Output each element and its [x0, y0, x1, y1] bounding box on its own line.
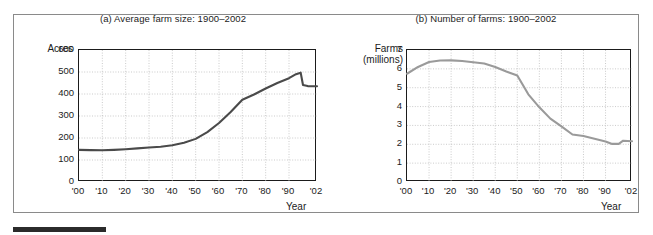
chart-a-ytick-label: 600	[48, 43, 74, 54]
chart-a-xtick-label: '90	[277, 185, 299, 196]
chart-a-xtick-label: '30	[137, 185, 159, 196]
chart-a-svg	[79, 50, 317, 182]
chart-b-xtick-label: '20	[439, 185, 461, 196]
chart-b-xtick-label: '50	[505, 185, 527, 196]
chart-b-ytick-label: 3	[376, 118, 402, 129]
chart-b-xtick-label: '90	[594, 185, 616, 196]
chart-b-xtick-label: '40	[483, 185, 505, 196]
chart-a-xtick-label: '20	[114, 185, 136, 196]
chart-b-xtick-label: '00	[395, 185, 417, 196]
chart-b-ytick-label: 7	[376, 43, 402, 54]
chart-a-xlabel: Year	[286, 201, 306, 212]
chart-b-plot-area	[406, 49, 631, 181]
chart-b-svg	[407, 50, 632, 182]
chart-panel-a: (a) Average farm size: 1900–2002 Acres Y…	[13, 0, 333, 199]
chart-a-ytick-label: 100	[48, 153, 74, 164]
chart-b-ytick-label: 5	[376, 81, 402, 92]
chart-b-title: (b) Number of farms: 1900–2002	[333, 13, 639, 24]
chart-b-xtick-label: '60	[527, 185, 549, 196]
figure-root: (a) Average farm size: 1900–2002 Acres Y…	[0, 0, 653, 235]
chart-b-ytick-label: 1	[376, 156, 402, 167]
chart-b-ytick-label: 4	[376, 100, 402, 111]
chart-a-xtick-label: '40	[160, 185, 182, 196]
chart-a-ytick-label: 500	[48, 65, 74, 76]
chart-b-xlabel: Year	[601, 201, 621, 212]
chart-a-plot-area	[78, 49, 316, 181]
source-rule	[13, 227, 106, 232]
chart-a-xtick-label: '02	[305, 185, 327, 196]
chart-b-xtick-label: '70	[549, 185, 571, 196]
chart-a-xtick-label: '70	[230, 185, 252, 196]
chart-a-title: (a) Average farm size: 1900–2002	[13, 13, 333, 24]
chart-a-ytick-label: 300	[48, 109, 74, 120]
chart-a-xtick-label: '50	[184, 185, 206, 196]
chart-a-xtick-label: '80	[254, 185, 276, 196]
chart-a-xtick-label: '60	[207, 185, 229, 196]
chart-a-ytick-label: 400	[48, 87, 74, 98]
chart-b-ytick-label: 2	[376, 137, 402, 148]
chart-b-xtick-label: '02	[620, 185, 642, 196]
chart-b-xtick-label: '30	[461, 185, 483, 196]
chart-b-xtick-label: '80	[571, 185, 593, 196]
chart-b-xtick-label: '10	[417, 185, 439, 196]
chart-b-ytick-label: 6	[376, 62, 402, 73]
chart-panel-b: (b) Number of farms: 1900–2002 Farms (mi…	[333, 0, 639, 199]
chart-a-ytick-label: 200	[48, 131, 74, 142]
chart-a-xtick-label: '00	[67, 185, 89, 196]
chart-a-xtick-label: '10	[90, 185, 112, 196]
